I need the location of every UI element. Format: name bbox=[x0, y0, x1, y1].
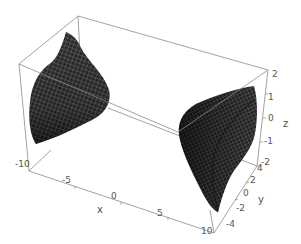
z-tick-label: 1 bbox=[268, 93, 274, 102]
x-tick-label: 10 bbox=[201, 227, 212, 236]
x-tick-label: -5 bbox=[62, 176, 71, 185]
y-tick-label: -4 bbox=[226, 220, 235, 229]
z-tick-label: -2 bbox=[261, 158, 270, 167]
x-tick-label: -10 bbox=[15, 160, 30, 169]
surface-left-lobe bbox=[29, 32, 109, 144]
z-tick-label: -1 bbox=[264, 137, 273, 146]
y-tick-label: 0 bbox=[243, 189, 249, 198]
y-tick-label: -2 bbox=[236, 204, 245, 213]
y-axis-label: y bbox=[258, 195, 264, 205]
x-tick-label: 5 bbox=[157, 209, 163, 218]
y-tick-label: 2 bbox=[250, 176, 256, 185]
x-axis-label: x bbox=[97, 205, 103, 215]
z-tick-label: 2 bbox=[272, 70, 278, 79]
surface-plot-canvas bbox=[0, 0, 301, 244]
z-axis-label: z bbox=[283, 119, 288, 129]
z-tick-label: 0 bbox=[268, 114, 274, 123]
x-tick-label: 0 bbox=[111, 192, 117, 201]
